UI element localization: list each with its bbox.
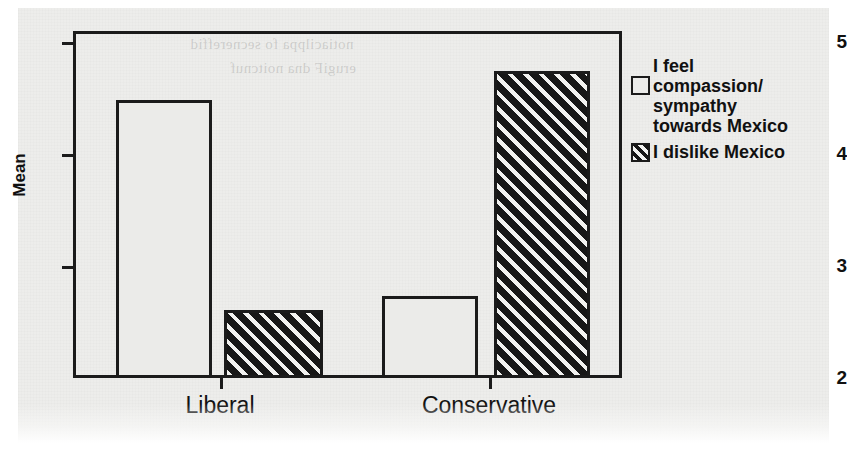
scan-bottom-fade [18, 404, 829, 444]
bar-liberal-compassion[interactable] [116, 100, 212, 378]
legend-swatch-hatched-icon [631, 143, 650, 162]
y-tick-label-2: 2 [801, 367, 847, 389]
y-axis-title: Mean [10, 153, 30, 196]
plot-area [76, 34, 619, 375]
legend-item-dislike[interactable]: I dislike Mexico [631, 142, 843, 162]
y-tick-mark-5 [62, 42, 73, 45]
chart-page: notiacilppa fo secnereffid erugiF dna no… [0, 0, 847, 476]
legend-label-dislike: I dislike Mexico [653, 142, 785, 162]
x-tick-mark-liberal [220, 378, 223, 389]
bar-conservative-dislike[interactable] [494, 71, 590, 378]
legend-swatch-open-icon [631, 76, 650, 95]
bar-liberal-dislike[interactable] [224, 310, 323, 378]
x-tick-mark-conservative [489, 378, 492, 389]
y-tick-label-3: 3 [801, 255, 847, 277]
plot-frame [73, 31, 622, 378]
y-tick-mark-3 [62, 266, 73, 269]
legend-item-compassion[interactable]: I feel compassion/ sympathy towards Mexi… [631, 56, 843, 136]
y-tick-label-5: 5 [801, 31, 847, 53]
y-tick-mark-4 [62, 154, 73, 157]
chart-legend: I feel compassion/ sympathy towards Mexi… [631, 56, 843, 162]
legend-label-compassion: I feel compassion/ sympathy towards Mexi… [653, 56, 788, 136]
bar-conservative-compassion[interactable] [382, 296, 478, 378]
